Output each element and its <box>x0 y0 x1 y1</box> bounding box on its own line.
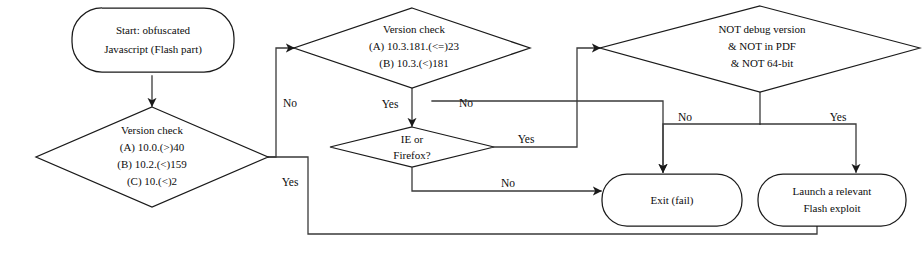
edge-label-left-no: No <box>283 97 297 109</box>
edge-label-browser-no: No <box>501 177 515 189</box>
environment-check-line-3: & NOT 64-bit <box>731 57 794 69</box>
edge-mid-no-to-exit <box>432 101 663 172</box>
environment-check-node[interactable]: NOT debug version & NOT in PDF & NOT 64-… <box>600 6 920 92</box>
version-check-left-line-3: (B) 10.2.(<)159 <box>117 158 187 171</box>
edge-label-left-yes: Yes <box>282 176 299 188</box>
start-node[interactable]: Start: obfuscated Javascript (Flash part… <box>72 8 234 72</box>
exit-fail-label: Exit (fail) <box>650 194 693 207</box>
start-node-line-2: Javascript (Flash part) <box>104 43 202 56</box>
browser-check-line-2: Firefox? <box>393 149 430 161</box>
edge-environment-no-to-exit <box>663 124 760 172</box>
launch-exploit-line-2: Flash exploit <box>803 202 860 214</box>
version-check-left-line-2: (A) 10.0.(>)40 <box>120 141 185 154</box>
browser-check-line-1: IE or <box>401 133 424 145</box>
edge-browser-yes-to-environment <box>494 48 600 147</box>
version-check-mid-line-2: (A) 10.3.181.(<=)23 <box>369 40 460 53</box>
version-check-mid-node[interactable]: Version check (A) 10.3.181.(<=)23 (B) 10… <box>294 8 530 88</box>
edge-label-env-yes: Yes <box>830 111 847 123</box>
edge-label-mid-yes: Yes <box>382 98 399 110</box>
flowchart-canvas: Start: obfuscated Javascript (Flash part… <box>0 0 922 254</box>
version-check-left-line-1: Version check <box>121 124 184 136</box>
launch-exploit-node[interactable]: Launch a relevant Flash exploit <box>758 174 906 226</box>
environment-check-line-2: & NOT in PDF <box>728 40 796 52</box>
start-node-line-1: Start: obfuscated <box>116 24 191 36</box>
edge-environment-yes-to-launch <box>760 124 856 172</box>
browser-check-node[interactable]: IE or Firefox? <box>330 127 494 167</box>
edge-label-mid-no: No <box>459 97 473 109</box>
version-check-mid-line-1: Version check <box>383 23 446 35</box>
edge-label-env-no: No <box>678 111 692 123</box>
version-check-mid-line-3: (B) 10.3.(<)181 <box>379 57 448 70</box>
edge-label-browser-yes: Yes <box>518 133 535 145</box>
version-check-left-line-4: (C) 10.(<)2 <box>127 175 177 188</box>
environment-check-line-1: NOT debug version <box>718 23 806 35</box>
version-check-left-node[interactable]: Version check (A) 10.0.(>)40 (B) 10.2.(<… <box>36 107 268 207</box>
launch-exploit-line-1: Launch a relevant <box>793 185 872 197</box>
flowchart-svg: Start: obfuscated Javascript (Flash part… <box>0 0 922 254</box>
exit-fail-node[interactable]: Exit (fail) <box>602 174 742 226</box>
